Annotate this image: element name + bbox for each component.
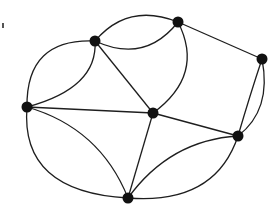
node-b <box>173 17 184 28</box>
edge-d-e <box>27 107 153 113</box>
edge-d-g-outer <box>27 107 128 198</box>
edge-d-g-inner <box>27 107 128 198</box>
edge-a-b-upper <box>95 15 178 41</box>
node-a <box>90 36 101 47</box>
graph-diagram <box>0 0 280 213</box>
edge-f-g-lower <box>128 136 238 199</box>
edge-b-e <box>153 22 187 113</box>
node-d <box>22 102 33 113</box>
corner-mark <box>2 23 4 28</box>
edge-e-g <box>128 113 153 198</box>
edge-a-d-outer <box>27 41 95 107</box>
node-e <box>148 108 159 119</box>
edge-a-e <box>95 41 153 113</box>
node-g <box>123 193 134 204</box>
edge-e-f <box>153 113 238 136</box>
edge-b-c <box>178 22 262 59</box>
edge-a-b-lower <box>95 22 178 49</box>
node-c <box>257 54 268 65</box>
edges <box>27 15 265 198</box>
edge-a-d-inner <box>27 41 95 107</box>
node-f <box>233 131 244 142</box>
